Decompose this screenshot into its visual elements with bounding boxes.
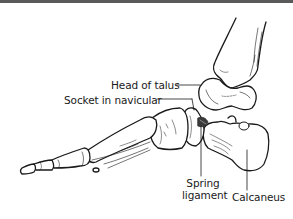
label-spring-ligament-line2: ligament [182,189,224,201]
label-spring-ligament: Spring ligament [182,177,224,201]
label-spring-ligament-line1: Spring [182,177,224,189]
label-socket-in-navicular: Socket in navicular [64,94,162,106]
label-head-of-talus: Head of talus [111,79,180,91]
calcaneus-bone [203,116,269,171]
tibia-bone [214,18,266,88]
phalanx-bones [21,148,91,174]
metatarsal-bones [87,117,156,172]
foot-anatomy-diagram: Head of talus Socket in navicular Spring… [0,0,293,219]
foot-bones-illustration [0,0,293,219]
label-calcaneus: Calcaneus [232,191,285,203]
